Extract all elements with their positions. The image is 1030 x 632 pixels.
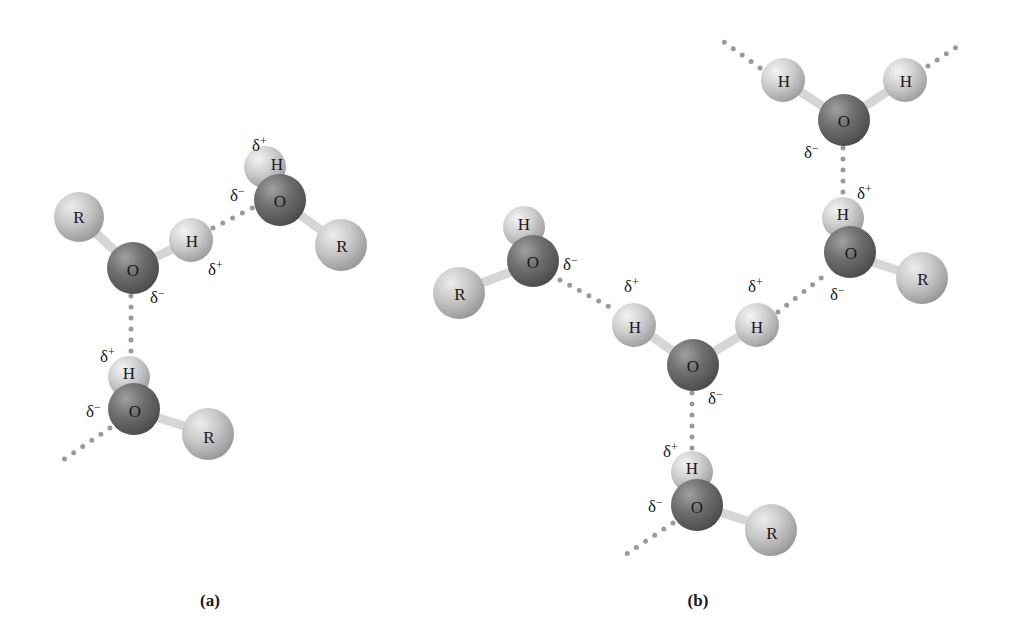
- svg-text:O: O: [127, 261, 139, 280]
- svg-text:O: O: [838, 112, 850, 131]
- partial-charge-negative: δ−: [563, 253, 578, 274]
- atom-oxygen: O: [667, 339, 719, 391]
- atom-r: R: [315, 219, 367, 271]
- atom-oxygen: O: [107, 242, 159, 294]
- atom-r: R: [896, 252, 948, 304]
- molecule-alcohol-2: H O R δ+ δ−: [230, 134, 367, 271]
- svg-text:R: R: [336, 237, 348, 256]
- svg-text:R: R: [73, 208, 85, 227]
- hydrogen-bonding-diagram: R O H δ+ δ− H O R δ+ δ− H O R δ+ δ− (a): [0, 0, 1030, 632]
- partial-charge-positive: δ+: [748, 275, 763, 296]
- svg-text:O: O: [129, 402, 141, 421]
- svg-text:H: H: [629, 318, 641, 337]
- partial-charge-positive: δ+: [857, 182, 872, 203]
- atom-oxygen: O: [824, 226, 876, 278]
- svg-text:H: H: [271, 155, 283, 174]
- molecule-water-central: H H O δ+ δ+ δ−: [612, 275, 779, 408]
- atom-r: R: [433, 267, 485, 319]
- atom-hydrogen: H: [883, 58, 927, 102]
- svg-text:O: O: [274, 192, 286, 211]
- partial-charge-negative: δ−: [230, 184, 245, 205]
- atom-hydrogen: H: [761, 58, 805, 102]
- atom-oxygen: O: [507, 235, 559, 287]
- panel-caption-b: (b): [688, 591, 709, 610]
- svg-text:R: R: [917, 270, 929, 289]
- atom-oxygen: O: [254, 174, 306, 226]
- partial-charge-positive: δ+: [624, 275, 639, 296]
- hydrogen-bond-lines: [560, 42, 964, 555]
- atom-r: R: [182, 408, 234, 460]
- atom-oxygen: O: [671, 479, 723, 531]
- partial-charge-negative: δ−: [830, 283, 845, 304]
- panel-caption-a: (a): [200, 591, 220, 610]
- svg-text:H: H: [518, 215, 530, 234]
- svg-text:O: O: [845, 244, 857, 263]
- svg-text:H: H: [686, 459, 698, 478]
- svg-text:R: R: [203, 428, 215, 447]
- partial-charge-positive: δ+: [100, 345, 115, 366]
- atom-hydrogen: H: [169, 218, 213, 262]
- partial-charge-negative: δ−: [86, 400, 101, 421]
- atom-hydrogen: H: [735, 303, 779, 347]
- atom-hydrogen: H: [612, 303, 656, 347]
- svg-text:O: O: [687, 357, 699, 376]
- partial-charge-positive: δ+: [663, 440, 678, 461]
- panel-b: H O R δ− H H O δ+ δ+ δ− H H O δ−: [433, 42, 964, 610]
- panel-a: R O H δ+ δ− H O R δ+ δ− H O R δ+ δ− (a): [54, 134, 367, 610]
- molecule-alcohol-3: H O R δ+ δ−: [86, 345, 234, 460]
- partial-charge-negative: δ−: [648, 495, 663, 516]
- partial-charge-negative: δ−: [804, 141, 819, 162]
- svg-text:R: R: [766, 524, 778, 543]
- partial-charge-negative: δ−: [150, 286, 165, 307]
- partial-charge-positive: δ+: [208, 258, 223, 279]
- svg-text:O: O: [527, 253, 539, 272]
- svg-text:H: H: [900, 72, 912, 91]
- molecule-alcohol-6: H O R δ+ δ−: [648, 440, 797, 556]
- partial-charge-negative: δ−: [708, 387, 723, 408]
- svg-text:O: O: [691, 498, 703, 517]
- atom-oxygen: O: [818, 94, 870, 146]
- svg-text:H: H: [778, 72, 790, 91]
- atom-r: R: [54, 192, 104, 242]
- atom-r: R: [745, 504, 797, 556]
- svg-text:H: H: [751, 318, 763, 337]
- molecule-alcohol-4: H O R δ−: [433, 206, 578, 319]
- svg-text:R: R: [454, 285, 466, 304]
- svg-text:H: H: [186, 232, 198, 251]
- atom-oxygen: O: [108, 383, 160, 435]
- molecule-alcohol-1: R O H δ+ δ−: [54, 192, 223, 307]
- molecule-alcohol-5: H O R δ+ δ−: [822, 182, 948, 304]
- svg-text:H: H: [123, 364, 135, 383]
- svg-text:H: H: [837, 205, 849, 224]
